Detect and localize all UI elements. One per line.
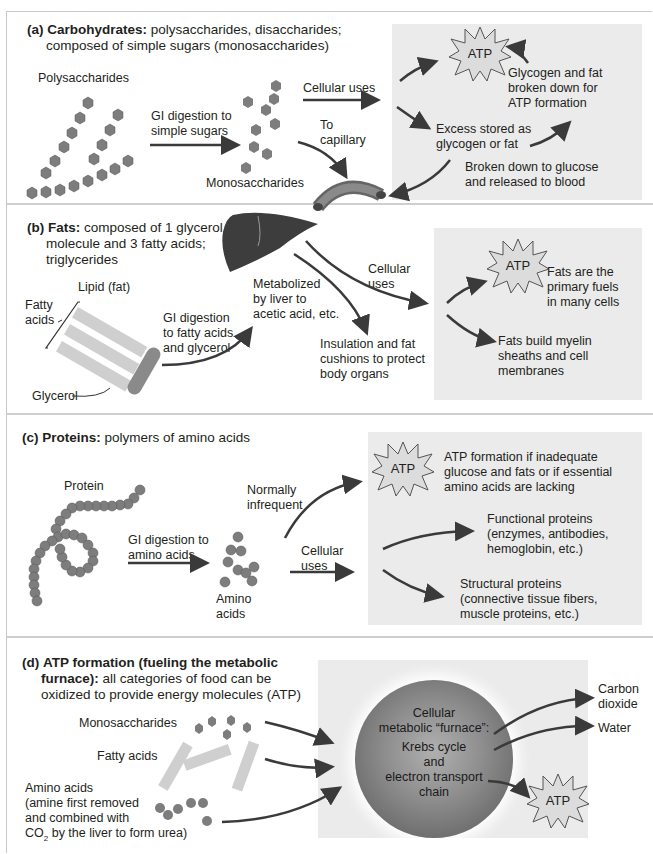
panel-d-graphics <box>0 0 653 854</box>
